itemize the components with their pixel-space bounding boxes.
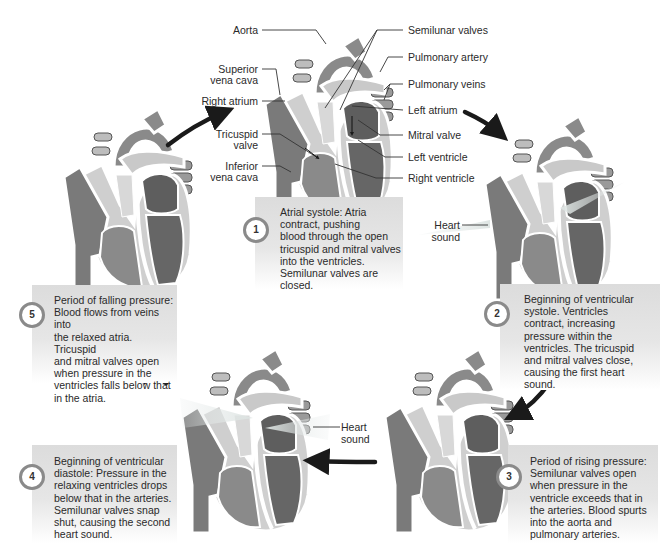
label-mitral-valve: Mitral valve bbox=[408, 129, 461, 141]
caption-line: Semilunar valves are bbox=[280, 267, 401, 279]
caption-line: into the aorta and bbox=[530, 516, 647, 528]
caption-line: and mitral valves close, bbox=[524, 354, 634, 366]
caption-line: the arteries. Blood spurts bbox=[530, 504, 647, 516]
caption-line: in the atria. bbox=[54, 392, 177, 404]
heart-phase-3-illustration bbox=[385, 349, 513, 533]
caption-line: diastole: Pressure in the bbox=[54, 467, 171, 479]
caption-line: Beginning of ventricular bbox=[54, 455, 171, 467]
caption-line: systole. Ventricles bbox=[524, 305, 634, 317]
caption-line: tricuspid and mitral valves bbox=[280, 243, 401, 255]
phase-1-caption: Atrial systole: Atria contract, pushing … bbox=[255, 197, 403, 289]
caption-line: pulmonary arteries. bbox=[530, 528, 647, 540]
caption-line: the relaxed atria. Tricuspid bbox=[54, 331, 177, 355]
phase-3-caption: Period of rising pressure: Semilunar val… bbox=[508, 445, 658, 543]
caption-line: Period of rising pressure: bbox=[530, 455, 647, 467]
label-pulmonary-artery: Pulmonary artery bbox=[408, 51, 488, 63]
caption-line: Beginning of ventricular bbox=[524, 293, 634, 305]
caption-line: closed. bbox=[280, 279, 401, 291]
caption-line: when pressure in the bbox=[54, 367, 177, 379]
label-superior-vena-cava-line2: vena cava bbox=[198, 74, 258, 86]
label-pulmonary-veins: Pulmonary veins bbox=[408, 78, 486, 90]
phase-1-number-badge-top: 1 bbox=[243, 217, 269, 243]
label-heart-sound-phase4-line1: Heart bbox=[341, 421, 367, 433]
caption-line: heart sound. bbox=[54, 528, 171, 540]
caption-line: sound. bbox=[524, 378, 634, 390]
label-inferior-vena-cava-line2: vena cava bbox=[198, 171, 258, 183]
label-semilunar-valves: Semilunar valves bbox=[408, 24, 488, 36]
label-left-atrium: Left atrium bbox=[408, 104, 458, 116]
phase-2-caption: Beginning of ventricular systole. Ventri… bbox=[500, 284, 660, 390]
caption-line: relaxing ventricles drops bbox=[54, 479, 171, 491]
caption-line: below that in the arteries. bbox=[54, 492, 171, 504]
caption-line: Semilunar valves open bbox=[530, 467, 647, 479]
phase-4-number-badge: 4 bbox=[19, 464, 45, 490]
caption-line: blood through the open bbox=[280, 230, 401, 242]
caption-line: causing the first heart bbox=[524, 366, 634, 378]
caption-line: ventricles falls below that bbox=[54, 379, 177, 391]
arrow-3-to-4 bbox=[316, 461, 375, 462]
heart-phase-5-illustration bbox=[64, 109, 192, 293]
label-heart-sound-phase2-line2: sound bbox=[420, 231, 460, 243]
caption-line: shut, causing the second bbox=[54, 516, 171, 528]
label-aorta: Aorta bbox=[222, 24, 258, 36]
heart-phase-2-illustration bbox=[485, 116, 613, 300]
label-heart-sound-phase2-line1: Heart bbox=[420, 219, 460, 231]
caption-line: ventricle exceeds that in bbox=[530, 492, 647, 504]
phase-2-number-badge: 2 bbox=[484, 301, 510, 327]
caption-line: Period of falling pressure: bbox=[54, 294, 177, 306]
heart-phase-4-illustration bbox=[182, 349, 310, 533]
phase-5-number-badge: 5 bbox=[19, 302, 45, 328]
caption-line: contract, increasing bbox=[524, 317, 634, 329]
phase-3-number-badge: 3 bbox=[496, 464, 522, 490]
caption-line: Atrial systole: Atria bbox=[280, 206, 401, 218]
label-left-ventricle: Left ventricle bbox=[408, 151, 468, 163]
label-right-ventricle: Right ventricle bbox=[408, 172, 475, 184]
caption-line: when pressure in the bbox=[530, 479, 647, 491]
caption-line: ventricles. The tricuspid bbox=[524, 342, 634, 354]
caption-line: Semilunar valves snap bbox=[54, 504, 171, 516]
label-heart-sound-phase4-line2: sound bbox=[341, 433, 370, 445]
label-right-atrium: Right atrium bbox=[188, 95, 258, 107]
caption-line: into the ventricles. bbox=[280, 255, 401, 267]
main-heart-illustration bbox=[265, 36, 393, 220]
label-tricuspid-valve-line2: valve bbox=[198, 139, 258, 151]
caption-line: Blood flows from veins into bbox=[54, 306, 177, 330]
arrow-1-to-2 bbox=[465, 112, 498, 132]
caption-line: pressure within the bbox=[524, 330, 634, 342]
caption-line: and mitral valves open bbox=[54, 355, 177, 367]
caption-line: contract, pushing bbox=[280, 218, 401, 230]
phase-5-caption: Period of falling pressure: Blood flows … bbox=[32, 285, 177, 383]
phase-4-caption: Beginning of ventricular diastole: Press… bbox=[32, 445, 177, 543]
